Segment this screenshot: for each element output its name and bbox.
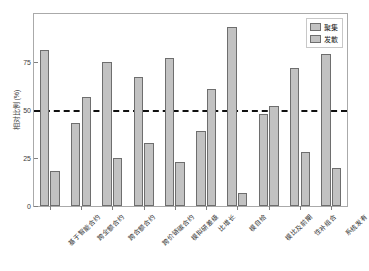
bar-group bbox=[128, 14, 159, 206]
x-tick-label: 跨价链碳合约 bbox=[159, 211, 196, 248]
x-tick bbox=[175, 206, 176, 210]
bar[interactable] bbox=[238, 193, 247, 206]
bar[interactable] bbox=[290, 68, 299, 206]
bar[interactable] bbox=[71, 123, 80, 206]
bar-group bbox=[222, 14, 253, 206]
bar[interactable] bbox=[207, 89, 216, 206]
x-tick bbox=[300, 206, 301, 210]
x-tick bbox=[112, 206, 113, 210]
y-axis-label: 相对比例 (%) bbox=[11, 90, 21, 131]
bar-group bbox=[65, 14, 96, 206]
x-tick bbox=[269, 206, 270, 210]
x-tick bbox=[331, 206, 332, 210]
legend-swatch-icon bbox=[310, 23, 321, 31]
bar[interactable] bbox=[144, 143, 153, 206]
bar-group bbox=[191, 14, 222, 206]
bar[interactable] bbox=[82, 97, 91, 206]
bar-group bbox=[159, 14, 190, 206]
x-tick-label: 性补组合 bbox=[311, 211, 338, 238]
bar[interactable] bbox=[259, 114, 268, 206]
x-tick-label: 基于智能合约 bbox=[65, 211, 102, 248]
bar[interactable] bbox=[165, 58, 174, 206]
x-tick bbox=[81, 206, 82, 210]
bar[interactable] bbox=[175, 162, 184, 206]
x-tick bbox=[206, 206, 207, 210]
x-tick bbox=[50, 206, 51, 210]
bar[interactable] bbox=[332, 168, 341, 206]
legend-item-1[interactable]: 发散 bbox=[310, 34, 338, 44]
bar[interactable] bbox=[50, 171, 59, 206]
y-tick-label: 25 bbox=[23, 155, 31, 162]
y-tick-label: 0 bbox=[27, 203, 31, 210]
bar[interactable] bbox=[321, 54, 330, 206]
bar[interactable] bbox=[301, 152, 310, 206]
x-tick-label: 比增长 bbox=[215, 211, 237, 233]
y-tick-label: 50 bbox=[23, 107, 31, 114]
bar-group bbox=[97, 14, 128, 206]
bar-group bbox=[253, 14, 284, 206]
bar[interactable] bbox=[134, 77, 143, 206]
plot-area: 0255075 bbox=[34, 14, 347, 206]
legend-item-0[interactable]: 聚集 bbox=[310, 22, 338, 32]
bar[interactable] bbox=[269, 106, 278, 206]
x-tick-label: 模比及前期 bbox=[282, 211, 314, 243]
plot-frame: 相对比例 (%) 0255075 聚集 发散 bbox=[33, 13, 348, 207]
x-tick-label: 跨合额合约 bbox=[126, 211, 158, 243]
legend-label: 聚集 bbox=[324, 22, 338, 32]
legend-swatch-icon bbox=[310, 35, 321, 43]
bar[interactable] bbox=[40, 50, 49, 206]
legend: 聚集 发散 bbox=[306, 18, 343, 48]
y-tick-label: 75 bbox=[23, 59, 31, 66]
clipped-header-text bbox=[0, 0, 360, 9]
legend-label: 发散 bbox=[324, 34, 338, 44]
bar[interactable] bbox=[196, 131, 205, 206]
x-tick bbox=[144, 206, 145, 210]
bar[interactable] bbox=[102, 62, 111, 206]
bar-group bbox=[34, 14, 65, 206]
bar[interactable] bbox=[227, 27, 236, 206]
x-tick-label: 系统发有 bbox=[343, 211, 369, 238]
y-tick bbox=[34, 206, 38, 207]
x-tick bbox=[237, 206, 238, 210]
x-tick-label: 模自给 bbox=[247, 211, 269, 233]
bar[interactable] bbox=[113, 158, 122, 206]
